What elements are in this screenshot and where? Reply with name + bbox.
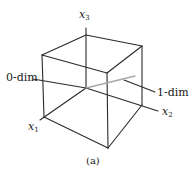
edge-top-front-right — [107, 46, 142, 73]
edge-left-vertical — [42, 55, 44, 117]
zero-dim-leader — [33, 79, 86, 88]
one-dim-label: 1-dim — [157, 87, 189, 98]
x1-label: x1 — [28, 121, 39, 134]
x2-label: x2 — [162, 106, 173, 119]
zero-dim-label: 0-dim — [6, 72, 38, 83]
edge-bottom-front-left — [44, 117, 108, 148]
edge-top-back-left — [42, 35, 86, 55]
figure-caption: (a) — [86, 156, 100, 166]
axis-x2 — [86, 88, 158, 111]
edge-top-back-right — [86, 35, 142, 46]
x2-sub: 2 — [168, 111, 172, 119]
x1-sub: 1 — [34, 126, 38, 134]
x3-sub: 3 — [85, 14, 89, 22]
edge-bottom-front-right — [108, 105, 142, 148]
x3-label: x3 — [79, 9, 90, 22]
axis-x1 — [40, 88, 86, 120]
edge-front-vertical — [107, 73, 108, 148]
cube-diagram: x3 x1 x2 0-dim 1-dim (a) — [0, 0, 190, 175]
edge-top-front-left — [42, 55, 107, 73]
one-dim-leader — [124, 80, 155, 92]
